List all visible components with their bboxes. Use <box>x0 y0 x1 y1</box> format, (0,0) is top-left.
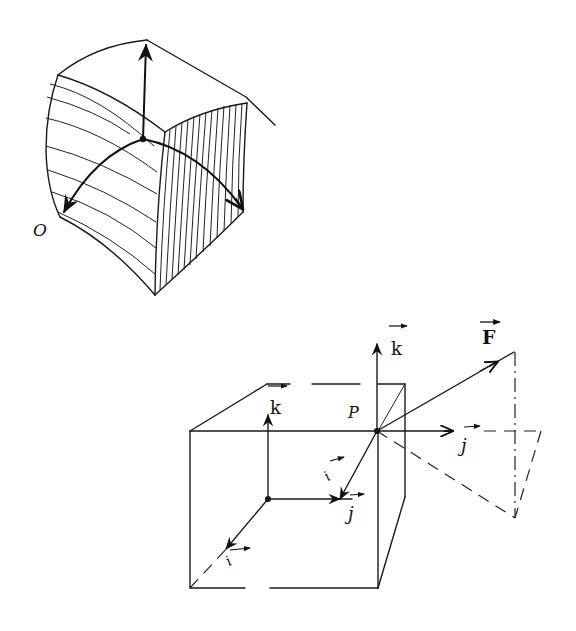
top-face-left-curve <box>58 40 147 75</box>
p-j-vector-bar <box>464 426 480 427</box>
force-label: F <box>482 326 496 348</box>
cube-i-arrow <box>226 499 268 549</box>
coordinate-curve-left <box>64 139 143 212</box>
projection-xy-diagonal <box>377 431 515 518</box>
p-k-label: k <box>391 338 403 359</box>
curvilinear-figure: O <box>33 40 275 295</box>
point-p-label: P <box>347 403 359 422</box>
left-face-top-edge <box>58 75 165 132</box>
cube-j-vector-bar <box>350 494 364 495</box>
node-point <box>140 136 146 142</box>
left-face-hatching <box>46 84 157 295</box>
projection-right-edge <box>515 431 541 518</box>
force-arrowhead <box>480 362 497 371</box>
diagram-canvas: O k j i k <box>0 0 576 631</box>
cube-j-label: j <box>344 503 354 524</box>
cube-top-diagonal <box>378 384 405 431</box>
cube-k-label: k <box>270 397 282 418</box>
right-face-bottom-edge <box>155 212 243 295</box>
p-i-label: i <box>320 468 333 484</box>
origin-label: O <box>33 220 47 240</box>
cube-i-label: i <box>223 553 235 569</box>
right-face-hatching <box>160 103 242 290</box>
cube-hidden-edge <box>190 545 230 588</box>
cube-right-bottom-edge <box>378 497 405 588</box>
cube-i-vector-bar <box>230 548 250 550</box>
p-i-vector-bar <box>330 457 344 461</box>
cartesian-figure: k j i k F j i P <box>190 322 541 588</box>
vertical-basis-arrow <box>143 45 146 139</box>
top-face-right-edge <box>147 40 275 125</box>
right-face-right-edge <box>243 103 247 212</box>
p-j-label: j <box>457 435 467 456</box>
cube-top-left-edge <box>190 384 267 431</box>
p-i-arrow <box>340 431 377 499</box>
left-face-left-edge <box>46 75 60 217</box>
